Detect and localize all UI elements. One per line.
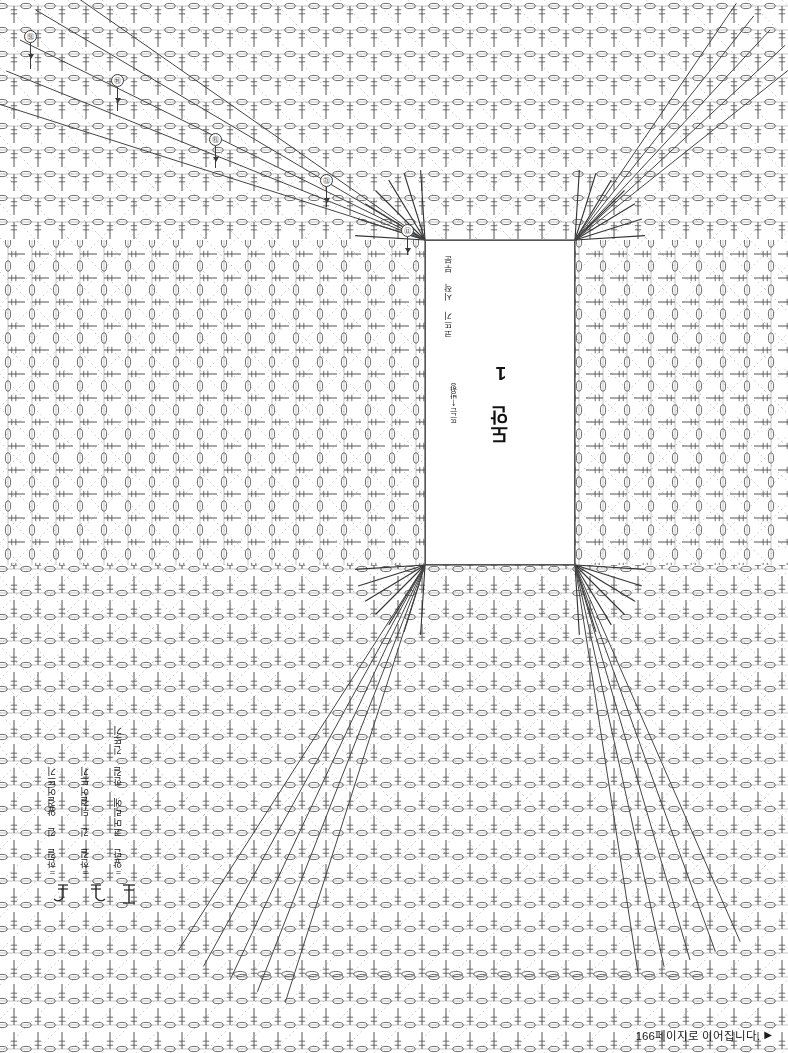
- legend-item-label-wrap: =한길 긴 앞걸어뜨기: [48, 762, 59, 879]
- step-callout-label: ⑮: [24, 30, 37, 43]
- step-callout-label: ⑪: [401, 224, 414, 237]
- legend-item-label: =한길 긴 앞걸어뜨기: [48, 766, 59, 879]
- footer-continuation: 166페이지로 이어집니다. ▶: [636, 1027, 772, 1043]
- legend-item-label: =한길 긴 뒤걸어뜨기: [81, 766, 92, 879]
- step-callout-c13: ⑬: [209, 133, 223, 147]
- footer-text: 166페이지로 이어집니다.: [636, 1027, 761, 1043]
- legend-symbol-front-post-cluster-2tog-icon: [116, 883, 142, 905]
- legend-item-1: =한길 긴 뒤걸어뜨기: [81, 787, 111, 905]
- callout-arrow-icon: [407, 237, 408, 255]
- legend-symbol-long-double-crochet-back-post-icon: [83, 883, 109, 905]
- step-callout-label: ⑬: [209, 133, 222, 146]
- triangle-right-icon: ▶: [764, 1030, 772, 1040]
- direction-arrow-icon: ↑: [451, 398, 457, 409]
- step-callout-label: ⑭: [111, 74, 124, 87]
- pattern-chart-page: 도안 1 코뜨기 시작 부분 뜨는 방향 ↑ ⑮⑭⑬⑫⑪ =한길 긴 앞걸어뜨기…: [0, 0, 788, 1053]
- center-panel-title: 도안 1: [490, 363, 511, 445]
- step-callout-c12: ⑫: [320, 174, 334, 188]
- legend-item-0: =한길 긴 앞걸어뜨기: [48, 787, 78, 905]
- callout-arrow-icon: [117, 87, 118, 111]
- start-point-note: 코뜨기 시작 부분: [424, 258, 454, 338]
- step-callout-c15: ⑮: [24, 30, 38, 44]
- legend-item-label-wrap: =앞단 코머리에 한길 긴뜨기: [114, 721, 125, 879]
- step-callout-label: ⑫: [320, 174, 333, 187]
- callout-arrow-icon: [326, 187, 327, 207]
- legend-item-label-wrap: =한길 긴 뒤걸어뜨기: [81, 762, 92, 879]
- step-callout-c14: ⑭: [111, 74, 125, 88]
- callout-arrow-icon: [215, 146, 216, 168]
- legend-item-2: =앞단 코머리에 한길 긴뜨기: [114, 787, 144, 905]
- step-callout-c11: ⑪: [401, 224, 415, 238]
- legend-item-label: =앞단 코머리에 한길 긴뜨기: [114, 725, 125, 879]
- legend-symbol-long-double-crochet-front-post-icon: [50, 883, 76, 905]
- callout-arrow-icon: [30, 43, 31, 69]
